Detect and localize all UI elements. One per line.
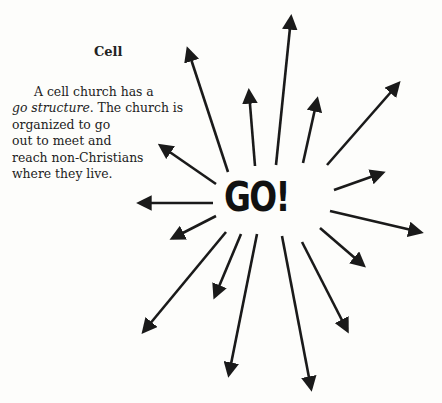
arrow-icon (161, 146, 216, 184)
arrow-icon (249, 92, 255, 166)
radiating-arrows (0, 0, 442, 403)
go-label: GO! (224, 174, 289, 220)
arrow-icon (276, 18, 291, 165)
arrow-icon (188, 50, 228, 172)
arrow-icon (327, 84, 398, 165)
arrow-icon (282, 236, 311, 388)
arrow-icon (330, 211, 420, 232)
page: Cell A cell church has a go structure. T… (0, 0, 442, 403)
arrow-icon (215, 234, 241, 296)
arrow-icon (334, 173, 382, 190)
arrow-icon (303, 100, 317, 163)
arrow-icon (320, 228, 363, 265)
arrow-icon (302, 242, 347, 330)
arrow-icon (144, 232, 226, 331)
arrow-icon (173, 216, 216, 238)
